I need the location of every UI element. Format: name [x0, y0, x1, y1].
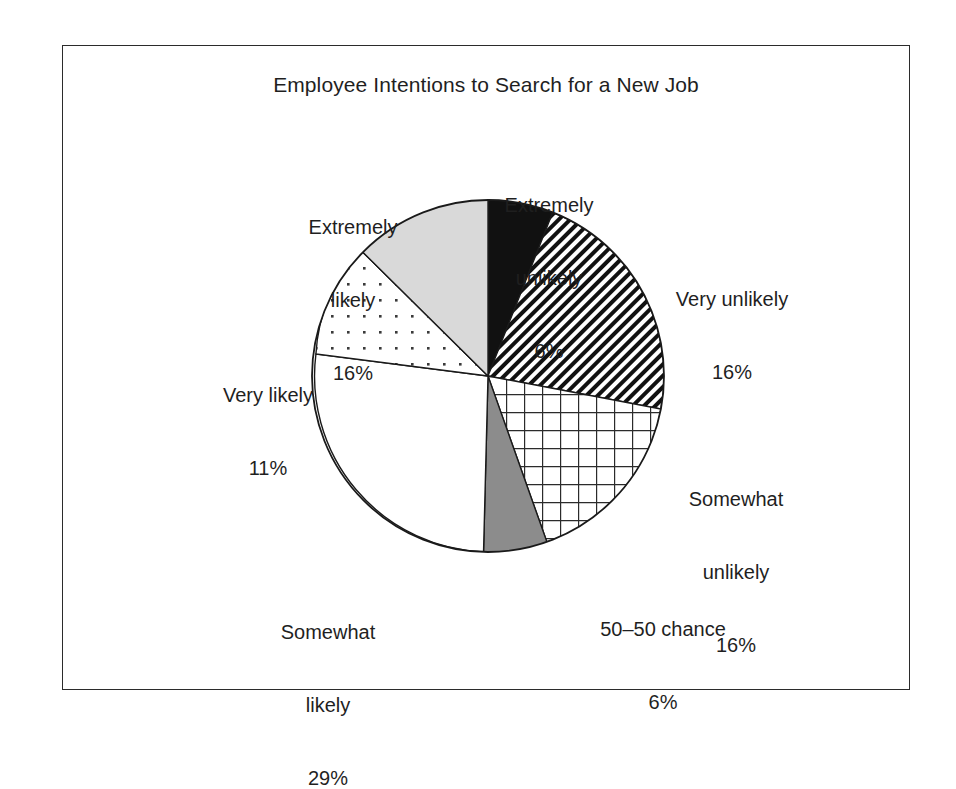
pie-label-fifty-fifty-line1: 50–50 chance [563, 617, 763, 641]
pie-label-somewhat-likely-line1: Somewhat [223, 620, 433, 644]
pie-label-somewhat-likely-percent: 29% [223, 766, 433, 789]
pie-label-extremely-likely: Extremely likely 16% [258, 166, 448, 434]
pie-label-very-likely-percent: 11% [173, 456, 363, 480]
pie-label-extremely-unlikely: Extremely unlikely 6% [459, 144, 639, 412]
pie-label-very-unlikely: Very unlikely 16% [637, 238, 827, 433]
pie-label-extremely-unlikely-line1: Extremely [459, 193, 639, 217]
pie-label-somewhat-likely: Somewhat likely 29% [223, 571, 433, 789]
chart-frame: Employee Intentions to Search for a New … [62, 45, 910, 690]
pie-label-extremely-likely-percent: 16% [258, 361, 448, 385]
pie-label-very-unlikely-percent: 16% [637, 360, 827, 384]
pie-label-extremely-unlikely-percent: 6% [459, 339, 639, 363]
pie-label-somewhat-unlikely-line1: Somewhat [641, 487, 831, 511]
pie-label-extremely-unlikely-line2: unlikely [459, 266, 639, 290]
pie-label-very-unlikely-line1: Very unlikely [637, 287, 827, 311]
pie-label-fifty-fifty-percent: 6% [563, 690, 763, 714]
pie-label-somewhat-likely-line2: likely [223, 693, 433, 717]
pie-label-extremely-likely-line2: likely [258, 288, 448, 312]
page-title: Employee Intentions to Search for a New … [63, 73, 909, 97]
pie-label-extremely-likely-line1: Extremely [258, 215, 448, 239]
pie-label-fifty-fifty: 50–50 chance 6% [563, 568, 763, 763]
